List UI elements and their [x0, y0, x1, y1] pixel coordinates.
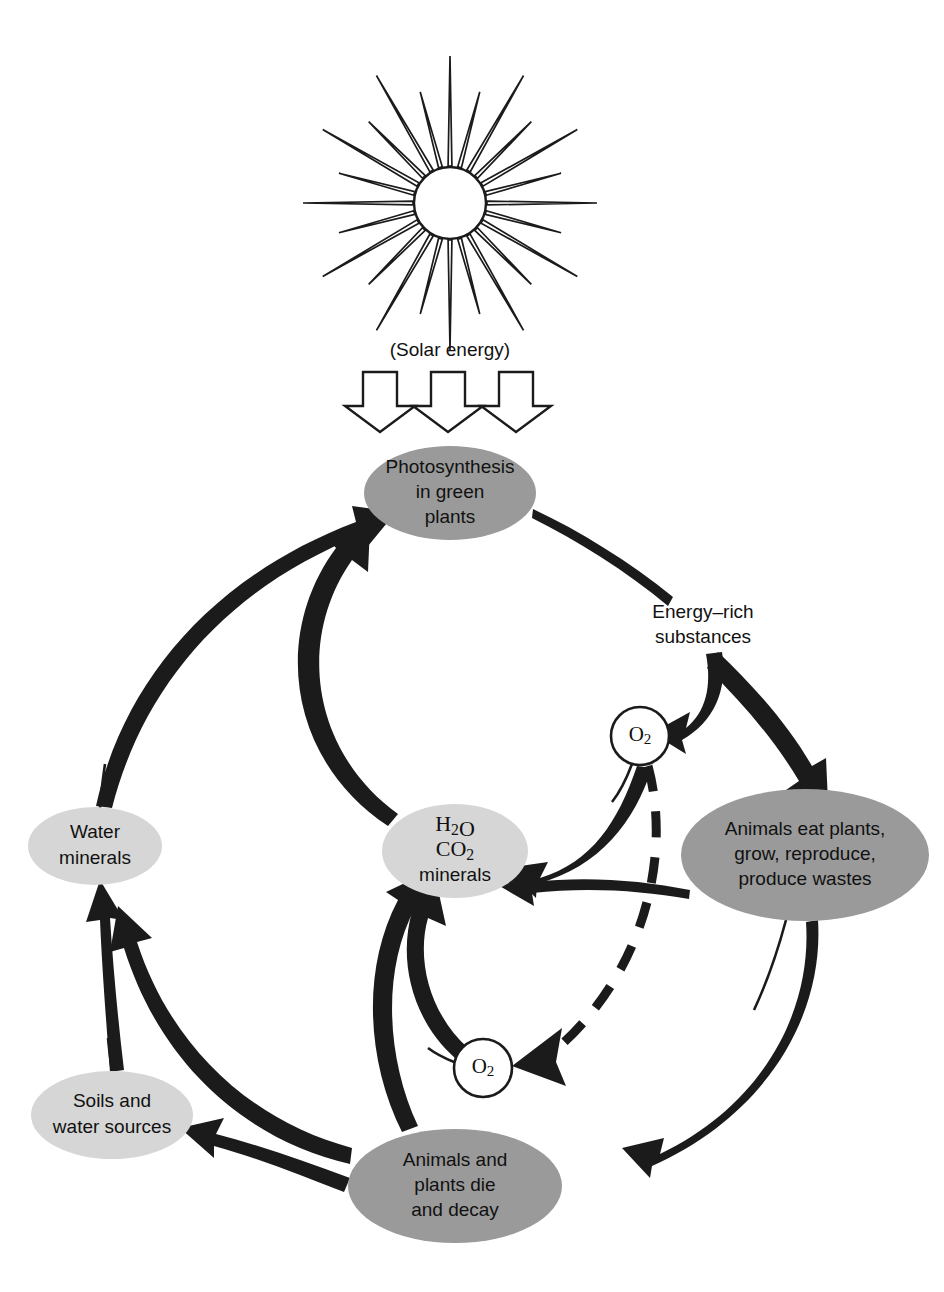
- solar-arrow-3-icon: [481, 372, 551, 432]
- water-minerals-node-line-2: minerals: [59, 847, 131, 868]
- oxygen-circle-lower[interactable]: O2: [454, 1039, 512, 1097]
- animals-plants-die-node-line-1: Animals and: [403, 1149, 508, 1170]
- photosynthesis-node-line-1: Photosynthesis: [386, 456, 515, 477]
- soils-and-water-sources-node-line-1: Soils and: [73, 1090, 151, 1111]
- sun-ray-icon: [487, 201, 597, 205]
- sun-ray-icon: [448, 56, 452, 166]
- flow-o2-upper-to-o2-lower-dashed: [560, 766, 656, 1046]
- flow-energy-rich-to-animals: [707, 652, 828, 802]
- solar-energy-arrows: [345, 372, 551, 432]
- arrowhead-o2-lower-dashed: [512, 1028, 566, 1086]
- animals-eat-plants-node[interactable]: Animals eat plants,grow, reproduce,produ…: [681, 789, 929, 921]
- animals-eat-plants-node-line-3: produce wastes: [738, 868, 871, 889]
- soils-and-water-sources-node[interactable]: Soils andwater sources: [31, 1071, 193, 1159]
- flow-animals-to-h2o-co2: [496, 868, 690, 906]
- oxygen-circle-upper[interactable]: O2: [611, 707, 669, 765]
- sun-core-icon: [414, 167, 486, 239]
- water-minerals-node[interactable]: Waterminerals: [28, 807, 162, 885]
- flow-animals-to-animals-die: [622, 920, 818, 1178]
- photosynthesis-node-line-3: plants: [425, 506, 476, 527]
- ecosystem-cycle-diagram: Photosynthesisin greenplantsAnimals eat …: [0, 0, 944, 1292]
- solar-arrow-1-icon: [345, 372, 415, 432]
- photosynthesis-node-line-2: in green: [416, 481, 485, 502]
- animals-eat-plants-node-line-1: Animals eat plants,: [725, 818, 886, 839]
- sun-ray-icon: [303, 201, 413, 205]
- solar-arrow-2-icon: [413, 372, 483, 432]
- soils-and-water-sources-node-line-2: water sources: [52, 1116, 171, 1137]
- flow-o2-lower-to-h2o-co2: [398, 880, 468, 1058]
- animals-plants-die-node-line-2: plants die: [414, 1174, 495, 1195]
- solar-energy-label: (Solar energy): [390, 339, 510, 360]
- animals-plants-die-node-line-3: and decay: [411, 1199, 499, 1220]
- photosynthesis-node[interactable]: Photosynthesisin greenplants: [364, 446, 536, 540]
- animals-eat-plants-node-line-2: grow, reproduce,: [734, 843, 876, 864]
- h2o-co2-minerals-node[interactable]: H2OCO2minerals: [382, 804, 528, 898]
- flow-photosynthesis-to-energy-rich: [532, 509, 673, 606]
- energy-rich-line1-label: Energy–rich: [652, 601, 753, 622]
- energy-rich-line2-label: substances: [655, 626, 751, 647]
- sun-icon: [303, 56, 597, 350]
- animals-plants-die-node[interactable]: Animals andplants dieand decay: [348, 1129, 562, 1243]
- h2o-co2-minerals-node-line-3: minerals: [419, 864, 491, 885]
- water-minerals-node-line-1: Water: [70, 821, 121, 842]
- sun-ray-icon: [448, 240, 452, 350]
- flow-h2o-co2-to-photosynthesis: [298, 526, 398, 826]
- stub-animals-bottom: [754, 920, 786, 1010]
